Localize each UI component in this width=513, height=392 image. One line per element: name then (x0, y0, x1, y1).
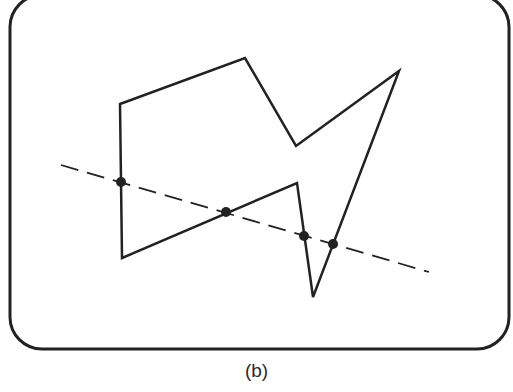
polygon-scanline-diagram (0, 0, 513, 392)
intersection-point-4 (328, 239, 338, 249)
concave-polygon (120, 58, 399, 297)
display-frame (10, 0, 509, 349)
intersection-point-3 (299, 231, 309, 241)
intersection-point-1 (116, 177, 126, 187)
intersection-points (116, 177, 338, 249)
intersection-point-2 (221, 207, 231, 217)
figure-caption: (b) (0, 360, 513, 382)
